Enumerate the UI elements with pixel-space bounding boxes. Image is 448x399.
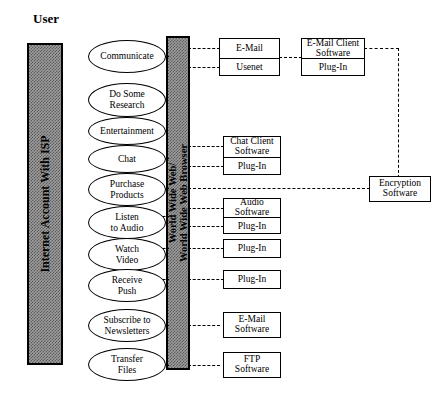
service-box-email-usenet[interactable]: E-Mail Usenet (219, 38, 280, 76)
internet-account-bar: Internet Account With ISP (27, 43, 63, 365)
internet-account-bar-label: Internet Account With ISP (39, 135, 52, 272)
activity-do-some-research[interactable]: Do SomeResearch (88, 83, 166, 117)
activity-entertainment[interactable]: Entertainment (88, 117, 166, 145)
activity-chat-label: Chat (118, 154, 136, 165)
connector-bar-audiosoftware (188, 208, 224, 209)
security-box-encryption-software[interactable]: EncryptionSoftware (369, 176, 431, 202)
connector-bar-chatplugin (188, 166, 224, 167)
connector-bar-emailsoftware (188, 325, 220, 326)
www-browser-bar-label: World Wide Web/ World Wide Web Browser (167, 144, 189, 262)
activity-transfer-files[interactable]: TransferFiles (88, 348, 166, 381)
service-cell-email[interactable]: E-Mail (220, 39, 279, 58)
service-cell-audio-software[interactable]: AudioSoftware (224, 199, 280, 217)
activity-purchase-products[interactable]: PurchaseProducts (88, 173, 166, 206)
www-browser-bar-label-line2: World Wide Web Browser (178, 144, 189, 262)
service-cell-usenet[interactable]: Usenet (220, 58, 279, 77)
service-cell-chat-client-software[interactable]: Chat ClientSoftware (224, 137, 280, 157)
activity-entertainment-label: Entertainment (100, 126, 154, 137)
activity-watch-video-label: WatchVideo (115, 244, 139, 265)
service-box-email-software[interactable]: E-MailSoftware (223, 312, 281, 338)
connector-bar-videoplugin (188, 248, 224, 249)
service-cell-push-plugin[interactable]: Plug-In (224, 271, 280, 288)
activity-chat[interactable]: Chat (88, 145, 166, 173)
activity-watch-video[interactable]: WatchVideo (88, 238, 166, 271)
activity-receive-push[interactable]: ReceivePush (88, 269, 166, 302)
client-box-email-client[interactable]: E-Mail ClientSoftware Plug-In (301, 38, 365, 76)
connector-bar-ftpsoftware (188, 365, 220, 366)
page-title: User (33, 11, 59, 27)
connector-bar-pushplugin (188, 279, 224, 280)
www-browser-bar: World Wide Web/ World Wide Web Browser (166, 36, 190, 370)
service-box-chat-client[interactable]: Chat ClientSoftware Plug-In (223, 136, 281, 175)
connector-bar-chatclient (188, 146, 224, 147)
activity-listen-to-audio[interactable]: Listento Audio (88, 206, 166, 239)
service-cell-chat-plugin[interactable]: Plug-In (224, 157, 280, 176)
connector-bar-email (188, 48, 220, 49)
activity-do-some-research-label: Do SomeResearch (109, 89, 145, 110)
connector-rail-vertical (398, 48, 399, 178)
activity-listen-to-audio-label: Listento Audio (111, 212, 144, 233)
service-cell-email-software[interactable]: E-MailSoftware (224, 313, 280, 337)
service-box-video-plugin[interactable]: Plug-In (223, 239, 281, 258)
service-box-push-plugin[interactable]: Plug-In (223, 270, 281, 289)
activity-subscribe-to-newsletters[interactable]: Subscribe toNewsletters (88, 309, 166, 342)
www-browser-bar-label-line1: World Wide Web/ (167, 163, 178, 244)
connector-emailclient-rail (364, 48, 399, 49)
service-cell-ftp-software[interactable]: FTPSoftware (224, 353, 280, 377)
activity-purchase-products-label: PurchaseProducts (110, 179, 144, 200)
activity-communicate[interactable]: Communicate (88, 40, 166, 73)
activity-communicate-label: Communicate (100, 51, 153, 62)
service-cell-audio-plugin[interactable]: Plug-In (224, 217, 280, 235)
client-cell-email-client-software[interactable]: E-Mail ClientSoftware (302, 39, 364, 58)
connector-email-emailclient (279, 57, 302, 58)
connector-bar-usenet (188, 67, 220, 68)
activity-subscribe-to-newsletters-label: Subscribe toNewsletters (103, 315, 150, 336)
client-cell-email-plugin[interactable]: Plug-In (302, 58, 364, 77)
activity-transfer-files-label: TransferFiles (111, 354, 143, 375)
activity-receive-push-label: ReceivePush (112, 275, 143, 296)
network-architecture-diagram: User Internet Account With ISP (0, 0, 448, 399)
service-cell-video-plugin[interactable]: Plug-In (224, 240, 280, 257)
connector-bar-audioplugin (188, 226, 224, 227)
service-box-audio-software[interactable]: AudioSoftware Plug-In (223, 198, 281, 234)
service-box-ftp-software[interactable]: FTPSoftware (223, 352, 281, 378)
connector-bar-encryption (188, 188, 370, 189)
security-cell-encryption-software[interactable]: EncryptionSoftware (370, 177, 430, 201)
